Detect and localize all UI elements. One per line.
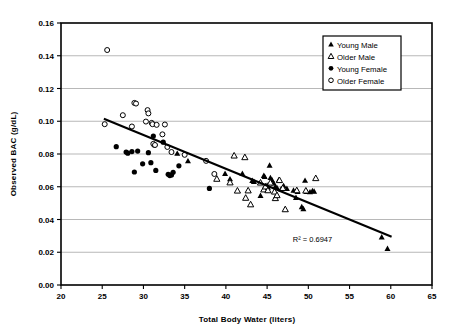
trendline: [104, 119, 392, 237]
svg-text:0.12: 0.12: [38, 85, 54, 94]
svg-text:60: 60: [386, 292, 395, 301]
y-axis-ticks: 0.000.020.040.060.080.100.120.140.16: [38, 19, 61, 290]
series-young-male: [174, 150, 390, 251]
legend: Young MaleOlder MaleYoung FemaleOlder Fe…: [323, 36, 401, 90]
svg-text:0.16: 0.16: [38, 19, 54, 28]
r-squared-annotation: R² = 0.6947: [293, 235, 332, 244]
svg-text:0.06: 0.06: [38, 183, 54, 192]
svg-text:45: 45: [263, 292, 272, 301]
svg-text:0.10: 0.10: [38, 117, 54, 126]
svg-text:35: 35: [180, 292, 189, 301]
legend-label: Older Female: [337, 77, 384, 86]
legend-label: Young Female: [337, 65, 387, 74]
svg-text:0.00: 0.00: [38, 281, 54, 290]
svg-text:0.08: 0.08: [38, 150, 54, 159]
svg-text:0.04: 0.04: [38, 216, 54, 225]
svg-text:50: 50: [304, 292, 313, 301]
x-axis-title: Total Body Water (liters): [199, 315, 296, 324]
svg-text:65: 65: [428, 292, 437, 301]
legend-label: Older Male: [337, 53, 375, 62]
x-axis-ticks: 20253035404550556065: [57, 285, 437, 301]
svg-text:30: 30: [139, 292, 148, 301]
chart-canvas: 20253035404550556065 0.000.020.040.060.0…: [0, 0, 455, 333]
svg-text:55: 55: [345, 292, 354, 301]
svg-text:40: 40: [221, 292, 230, 301]
svg-text:R² = 0.6947: R² = 0.6947: [293, 235, 332, 244]
scatter-chart: 20253035404550556065 0.000.020.040.060.0…: [0, 0, 455, 333]
svg-text:0.02: 0.02: [38, 248, 54, 257]
svg-text:25: 25: [98, 292, 107, 301]
legend-label: Young Male: [337, 41, 378, 50]
svg-text:0.14: 0.14: [38, 52, 54, 61]
svg-text:20: 20: [57, 292, 66, 301]
y-axis-title: Observed BAC (g/dL): [9, 112, 18, 197]
